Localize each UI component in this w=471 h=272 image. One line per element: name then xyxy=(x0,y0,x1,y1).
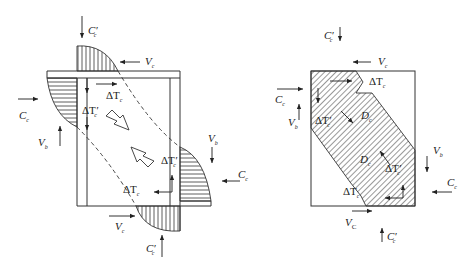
strut-arrow-down-right xyxy=(106,110,129,130)
label-left-compression: Cc xyxy=(275,93,285,107)
label-right-shear: Vb xyxy=(208,132,218,146)
bottom-stress-block xyxy=(136,206,180,231)
label-left-shear: Vb xyxy=(38,136,48,150)
label-left-tension: ΔT′c xyxy=(315,114,332,128)
label-top-tension: ΔTc xyxy=(106,89,123,103)
left-stress-block xyxy=(47,78,77,127)
left-joint-diagram: C′c Vc Cc Vb ΔTc ΔT′c Vb ΔT′c Cc ΔTc Vc … xyxy=(18,16,248,257)
label-top-shear: Vc xyxy=(378,55,388,69)
label-right-tension: ΔT′c xyxy=(385,162,402,176)
figure-canvas: C′c Vc Cc Vb ΔTc ΔT′c Vb ΔT′c Cc ΔTc Vc … xyxy=(0,0,471,272)
label-right-shear: Vb xyxy=(433,144,443,158)
right-stress-block xyxy=(180,147,211,201)
label-bottom-tension: ΔTc xyxy=(123,183,140,197)
label-bottom-shear: VC xyxy=(345,216,357,231)
label-right-tension: ΔT′c xyxy=(161,154,178,168)
right-joint-diagram: C′c Vc ΔTc Cc Vb ΔT′c Dc Dc ΔT′c Vb Cc Δ… xyxy=(275,27,457,244)
label-bottom-compression: C′c xyxy=(387,230,397,244)
label-top-tension: ΔTc xyxy=(369,75,386,89)
label-right-compression: Cc xyxy=(447,176,457,190)
strut-arrow-up-left xyxy=(131,147,154,167)
top-stress-block xyxy=(77,46,118,71)
label-left-compression: Cc xyxy=(19,109,29,123)
diagonal-compression-field xyxy=(311,71,415,206)
label-top-shear: Vc xyxy=(145,55,155,69)
label-bottom-compression: C′c xyxy=(146,242,156,256)
label-left-tension: ΔT′c xyxy=(82,104,99,118)
label-top-compression: C′c xyxy=(324,29,334,43)
label-right-compression: Cc xyxy=(238,168,248,182)
label-top-compression: C′c xyxy=(88,24,98,38)
label-left-shear: Vb xyxy=(288,116,298,130)
strut-boundary-upper xyxy=(118,71,180,147)
label-bottom-shear: Vc xyxy=(115,220,125,234)
